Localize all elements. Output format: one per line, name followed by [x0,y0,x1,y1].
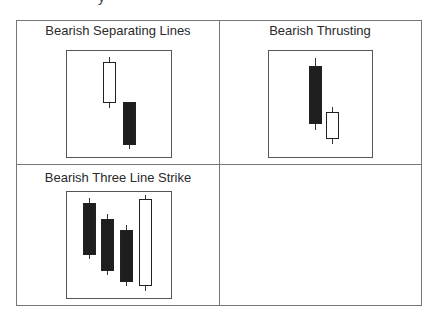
cropped-text-fragment: y [98,0,105,5]
black-candle-body [309,66,322,124]
panel-title: Bearish Thrusting [220,23,420,38]
column-divider [219,20,220,305]
white-candle-body [103,62,116,103]
panel-title: Bearish Three Line Strike [17,170,219,185]
black-candle-body [123,102,136,145]
black-candle-body [83,203,96,255]
candlestick-chart-box [66,50,172,158]
black-candle-body [120,230,133,282]
white-candle-body [139,199,152,286]
row-divider [16,164,421,165]
black-candle-body [101,219,114,271]
white-candle-body [326,112,339,139]
panel-title: Bearish Separating Lines [17,23,219,38]
candlestick-chart-box [66,191,172,299]
